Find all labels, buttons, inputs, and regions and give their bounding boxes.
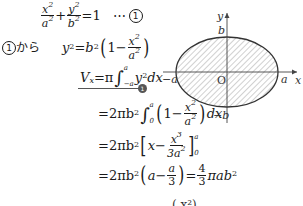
label-minus-b: −b [213, 109, 229, 122]
numerator: x [171, 133, 177, 146]
equals: = [186, 169, 197, 182]
equals-one: =1 [82, 9, 101, 22]
exponent: 2 [135, 46, 140, 55]
v-variable: V [80, 71, 89, 84]
origin-label: O [217, 74, 226, 87]
left-bracket: [ [140, 135, 146, 157]
exponent: 2 [181, 144, 186, 153]
label-a: a [281, 73, 288, 86]
lower-limit: 0 [150, 118, 154, 125]
volume-integral: Vx =π ∫ a −a y2 dx [80, 68, 163, 86]
y-variable: y [62, 41, 69, 54]
equals-2pi-b: =2πb [98, 107, 134, 120]
y-axis-label: y [216, 10, 224, 23]
denominator: b [68, 17, 75, 30]
numerator: a [167, 163, 176, 176]
step-label-kara: から [16, 42, 40, 54]
denominator: a [128, 49, 135, 62]
y-axis-arrow-icon [225, 13, 230, 18]
exponent: 2 [134, 170, 139, 178]
fraction-y2-over-b2: y2 b2 [67, 2, 80, 29]
dots: ⋯ [113, 9, 126, 22]
denominator: 3 [168, 176, 175, 188]
fraction-x2-over-a2: x2 a2 [128, 34, 141, 61]
exponent: 2 [74, 0, 79, 9]
fraction-4-over-3: 4 3 [197, 163, 206, 187]
upper-limit: a [150, 102, 154, 109]
x-minus: x− [148, 139, 166, 152]
right-bracket: ] [188, 135, 194, 157]
step-derive-y2: 1 から y2 = b2 ( 1− x2 a2 ) [2, 34, 150, 61]
right-paren: ) [178, 164, 184, 186]
subscript: x [89, 77, 94, 85]
exponent: 2 [48, 14, 53, 23]
b-variable: b [85, 41, 93, 54]
annotation-marker[interactable]: 1 [138, 84, 147, 93]
exponent: 2 [142, 72, 147, 80]
numerator: x [129, 35, 135, 48]
a-minus: a− [148, 169, 167, 182]
left-paren: ( [100, 37, 106, 59]
exponent: 3 [177, 130, 182, 139]
fraction-x2-over-a2: x2 a2 [41, 2, 54, 29]
exponent: 2 [75, 14, 80, 23]
left-paren: ( [140, 164, 146, 186]
exponent: 2 [134, 141, 139, 149]
exponent: 2 [69, 43, 74, 51]
lower-limit: −a [124, 81, 134, 88]
fraction-a-over-3: a 3 [167, 163, 176, 187]
exponent: 2 [134, 109, 139, 117]
x-axis-label: x [295, 74, 302, 87]
equals-2pi-b: =2πb [98, 139, 134, 152]
integral-sign: ∫ [140, 106, 149, 124]
upper-limit: a [124, 65, 134, 72]
step-result: =2πb2 ( a− a 3 ) = 4 3 πab2 [98, 163, 237, 187]
integral-limits: a 0 [150, 107, 154, 121]
integral-limits: a −a [124, 70, 134, 84]
label-b: b [218, 24, 225, 37]
evaluation-limits: a 0 [194, 139, 198, 153]
exponent: 2 [48, 0, 53, 9]
exponent: 2 [135, 32, 140, 41]
underline-highlight [78, 88, 140, 89]
exponent: 2 [232, 170, 237, 178]
denominator: 3a [167, 147, 181, 160]
ellipse-equation: x2 a2 + y2 b2 =1 ⋯ 1 [40, 2, 143, 29]
ellipse-graph: y x b −b −a a O [155, 5, 303, 125]
label-minus-a: −a [162, 73, 178, 86]
plus-sign: + [55, 9, 66, 22]
exponent: 2 [94, 43, 99, 51]
equals: = [74, 41, 85, 54]
one-minus: 1− [107, 41, 126, 54]
circled-number-ref: 1 [2, 41, 16, 55]
integrand: y [135, 71, 142, 84]
equals-pi: =π [94, 71, 113, 84]
fraction-x3-over-3a2: x3 3a2 [167, 132, 186, 159]
lower-limit: 0 [194, 150, 198, 157]
circled-number-label: 1 [129, 9, 143, 23]
partial-next-line: ( x²) [172, 198, 197, 206]
right-paren: ) [143, 37, 149, 59]
denominator: 3 [198, 176, 205, 188]
equals-2pi-b: =2πb [98, 169, 134, 182]
integral-sign: ∫ [114, 69, 123, 87]
step-antiderivative: =2πb2 [ x− x3 3a2 ] a 0 [98, 132, 200, 159]
pi-a-b: πab [207, 169, 232, 182]
numerator: 4 [197, 163, 206, 176]
upper-limit: a [194, 134, 198, 141]
